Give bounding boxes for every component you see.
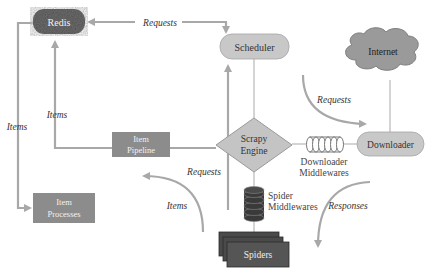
item-processes-label-line1: Item [56, 197, 72, 207]
node-item-pipeline[interactable]: Item Pipeline [112, 132, 170, 157]
label-items-to-redis: Items [46, 110, 68, 120]
spider-mw-label-line1: Spider [268, 191, 294, 201]
node-downloader-middlewares[interactable]: Downloader Middlewares [299, 137, 349, 178]
node-redis[interactable]: Redis [33, 9, 85, 34]
edge-redis-to-item-processes [18, 23, 33, 208]
curve-responses [318, 182, 370, 246]
node-item-processes[interactable]: Item Processes [33, 193, 95, 223]
engine-label-line1: Scrapy [241, 134, 268, 144]
redis-label: Redis [48, 17, 71, 28]
engine-label-line2: Engine [241, 146, 268, 156]
architecture-diagram: Redis Scheduler Internet Scrapy Engine D… [0, 0, 440, 274]
label-requests-to-redis: Requests [142, 18, 177, 28]
dl-mw-label-line2: Middlewares [299, 168, 349, 178]
spiders-label: Spiders [244, 250, 273, 260]
label-items-from-spiders: Items [166, 201, 188, 211]
node-spiders[interactable]: Spiders [219, 232, 289, 267]
node-spider-middlewares[interactable]: Spider Middlewares [244, 187, 318, 222]
item-pipeline-label-line1: Item [133, 134, 149, 144]
label-items-to-processes: Items [6, 122, 28, 132]
label-requests-from-spiders: Requests [186, 167, 221, 177]
label-requests-to-downloader: Requests [316, 95, 351, 105]
spider-mw-label-line2: Middlewares [268, 202, 318, 212]
node-scheduler[interactable]: Scheduler [220, 34, 289, 59]
node-downloader[interactable]: Downloader [357, 132, 424, 156]
item-processes-label-line2: Processes [47, 209, 80, 219]
downloader-label: Downloader [367, 140, 415, 150]
internet-label: Internet [368, 47, 398, 57]
scheduler-label: Scheduler [235, 42, 276, 53]
edge-item-pipeline-to-redis [55, 42, 112, 148]
dl-mw-label-line1: Downloader [301, 157, 349, 167]
label-responses: Responses [327, 201, 368, 211]
middleware-stack-icon [307, 137, 344, 152]
middleware-stack-icon [244, 187, 264, 222]
item-pipeline-label-line2: Pipeline [127, 145, 155, 155]
node-internet[interactable]: Internet [346, 28, 419, 71]
